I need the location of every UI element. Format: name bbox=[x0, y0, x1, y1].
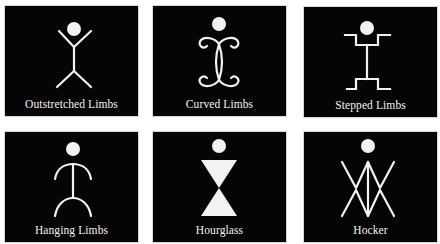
panel-curved-limbs: Curved Limbs bbox=[153, 6, 286, 116]
panel-hourglass: Hourglass bbox=[153, 132, 286, 242]
panel-label: Stepped Limbs bbox=[304, 99, 437, 111]
panel-hanging-limbs: Hanging Limbs bbox=[5, 132, 138, 242]
panel-label: Hourglass bbox=[153, 224, 286, 236]
panel-label: Curved Limbs bbox=[153, 98, 286, 110]
panel-outstretched-limbs: Outstretched Limbs bbox=[5, 6, 138, 116]
panel-stepped-limbs: Stepped Limbs bbox=[304, 7, 437, 117]
panel-label: Hocker bbox=[304, 224, 437, 236]
panel-hocker: Hocker bbox=[304, 132, 437, 242]
panel-label: Outstretched Limbs bbox=[5, 98, 138, 110]
panel-label: Hanging Limbs bbox=[5, 224, 138, 236]
